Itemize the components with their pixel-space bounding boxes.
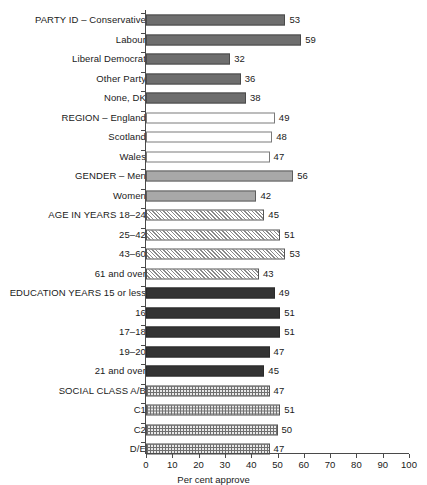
y-axis-tick <box>141 228 145 229</box>
bar <box>146 229 280 240</box>
bar-category-label: D/E <box>130 444 146 454</box>
bar-value-label: 32 <box>234 54 245 64</box>
bar-row: Labour59 <box>0 30 427 50</box>
bar <box>146 405 280 416</box>
y-axis-tick <box>141 169 145 170</box>
bar-value-label: 38 <box>250 93 261 103</box>
bar-value-label: 47 <box>274 386 285 396</box>
y-axis-tick <box>141 13 145 14</box>
bar <box>146 151 270 162</box>
bar <box>146 385 270 396</box>
bar-value-label: 43 <box>263 269 274 279</box>
bar-category-label: 61 and over <box>95 269 146 279</box>
bar-category-label: 25–42 <box>119 230 146 240</box>
bar-row: Women42 <box>0 186 427 206</box>
x-axis-tick <box>304 454 305 458</box>
x-axis-tick-label: 60 <box>299 460 310 470</box>
bar-value-label: 48 <box>276 132 287 142</box>
bar-row: 17–1851 <box>0 322 427 342</box>
bar-category-label: Other Party <box>96 74 146 84</box>
bar <box>146 210 264 221</box>
bar <box>146 288 275 299</box>
bar-row: C250 <box>0 420 427 440</box>
y-axis-tick <box>141 267 145 268</box>
bar-value-label: 45 <box>268 366 279 376</box>
bar-value-label: 53 <box>289 249 300 259</box>
bar-row: 25–4251 <box>0 225 427 245</box>
bar <box>146 249 285 260</box>
x-axis-tick-label: 80 <box>351 460 362 470</box>
bar <box>146 132 272 143</box>
y-axis-tick <box>141 72 145 73</box>
bar-row: 43–6053 <box>0 244 427 264</box>
bar-row: 1651 <box>0 303 427 323</box>
y-axis-tick <box>141 325 145 326</box>
bar-row: Scotland48 <box>0 127 427 147</box>
x-axis-tick-label: 50 <box>272 460 283 470</box>
y-axis-tick <box>141 345 145 346</box>
x-axis-tick <box>251 454 252 458</box>
bar <box>146 15 285 26</box>
bar-row: AGE IN YEARS 18–2445 <box>0 205 427 225</box>
bar-value-label: 47 <box>274 347 285 357</box>
bar-value-label: 59 <box>305 35 316 45</box>
bar-category-label: Women <box>113 191 146 201</box>
bar-category-label: 21 and over <box>95 366 146 376</box>
bar <box>146 190 256 201</box>
bar-category-label: GENDER – Men <box>75 171 146 181</box>
x-axis-tick <box>199 454 200 458</box>
y-axis-tick <box>141 442 145 443</box>
bar <box>146 307 280 318</box>
bar-value-label: 53 <box>289 15 300 25</box>
bar-category-label: None, DK <box>104 93 146 103</box>
bar-value-label: 49 <box>279 288 290 298</box>
bar-row: None, DK38 <box>0 88 427 108</box>
y-axis-tick <box>141 130 145 131</box>
bar-row: Other Party36 <box>0 69 427 89</box>
bar-category-label: EDUCATION YEARS 15 or less <box>10 288 146 298</box>
bar-value-label: 51 <box>284 230 295 240</box>
bar <box>146 54 230 65</box>
bar-row: C151 <box>0 400 427 420</box>
y-axis-tick <box>141 150 145 151</box>
bar-category-label: PARTY ID – Conservative <box>35 15 146 25</box>
bar <box>146 73 241 84</box>
bar <box>146 171 293 182</box>
bar-row: D/E47 <box>0 439 427 459</box>
x-axis-tick-label: 30 <box>220 460 231 470</box>
x-axis-tick <box>409 454 410 458</box>
bar-row: 19–2047 <box>0 342 427 362</box>
x-axis-tick <box>225 454 226 458</box>
bar-category-label: SOCIAL CLASS A/B <box>59 386 146 396</box>
y-axis-tick <box>141 189 145 190</box>
bar <box>146 93 246 104</box>
bar-value-label: 50 <box>282 425 293 435</box>
y-axis-tick <box>141 91 145 92</box>
y-axis-tick <box>141 286 145 287</box>
y-axis-tick <box>141 384 145 385</box>
bar-category-label: Liberal Democrat <box>72 54 146 64</box>
bar-value-label: 51 <box>284 327 295 337</box>
bar-row: GENDER – Men56 <box>0 166 427 186</box>
bar-category-label: Wales <box>119 152 146 162</box>
bar-row: Liberal Democrat32 <box>0 49 427 69</box>
x-axis-tick-label: 100 <box>401 460 417 470</box>
bar-category-label: REGION – England <box>61 113 146 123</box>
x-axis-tick-label: 40 <box>246 460 257 470</box>
y-axis-tick <box>141 247 145 248</box>
bar-category-label: 43–60 <box>119 249 146 259</box>
x-axis-tick-label: 70 <box>325 460 336 470</box>
bar <box>146 424 278 435</box>
x-axis-tick <box>356 454 357 458</box>
bar-category-label: 17–18 <box>119 327 146 337</box>
y-axis-tick <box>141 364 145 365</box>
bar-value-label: 56 <box>297 171 308 181</box>
bar-row: PARTY ID – Conservative53 <box>0 10 427 30</box>
bar-value-label: 42 <box>260 191 271 201</box>
y-axis-tick <box>141 52 145 53</box>
bar-category-label: Scotland <box>108 132 146 142</box>
bar <box>146 327 280 338</box>
bar <box>146 268 259 279</box>
y-axis-line <box>145 10 146 453</box>
